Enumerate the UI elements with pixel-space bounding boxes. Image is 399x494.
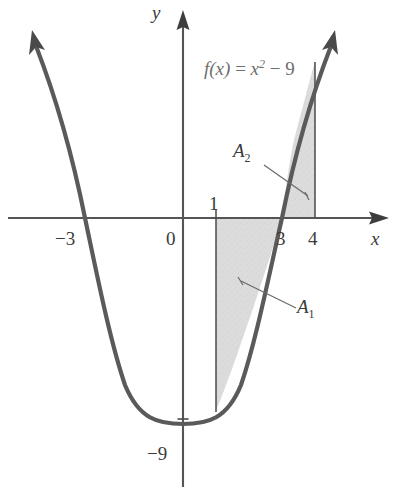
function-equation-label: f(x) = x2 − 9 <box>204 57 295 80</box>
tick-label-three: 3 <box>276 228 286 250</box>
tick-label-origin: 0 <box>166 228 176 250</box>
tick-label-four: 4 <box>308 228 318 250</box>
function-name: f(x) <box>204 58 230 79</box>
tick-label-neg-nine: −9 <box>147 443 167 465</box>
x-axis-label: x <box>371 228 379 250</box>
region-label-a2-letter: A <box>233 140 245 161</box>
x-axis-arrowhead <box>369 212 389 225</box>
y-axis-arrowhead <box>177 10 190 30</box>
region-label-a2-subscript: 2 <box>245 151 251 165</box>
y-axis-label: y <box>152 2 160 24</box>
minus-sign: − <box>270 58 281 79</box>
tick-label-one: 1 <box>209 193 219 215</box>
shaded-region-a1 <box>216 218 282 411</box>
region-label-a1: A1 <box>297 296 315 322</box>
region-label-a2: A2 <box>233 140 251 166</box>
region-label-a1-letter: A <box>297 296 309 317</box>
function-constant: 9 <box>285 58 295 79</box>
region-label-a1-subscript: 1 <box>309 307 315 321</box>
tick-label-neg-three: −3 <box>55 228 75 250</box>
function-base: x <box>251 58 259 79</box>
equals-sign: = <box>235 58 246 79</box>
figure-canvas: f(x) = x2 − 9 y x −3 0 1 3 4 −9 A1 A2 <box>0 0 399 494</box>
